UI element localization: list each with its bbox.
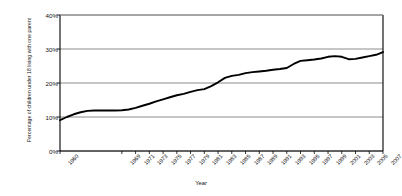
x-axis-tick-label: 2007 [390, 153, 402, 166]
x-axis-tick-label: 1987 [252, 153, 265, 166]
data-line-series [60, 52, 383, 120]
x-axis-tick-label: 1989 [266, 153, 279, 166]
y-axis-title: Percentage of children under 18 living w… [26, 14, 32, 146]
x-axis-tick-label: 1981 [211, 153, 224, 166]
x-axis-tick-label: 1969 [128, 153, 141, 166]
x-axis-tick-label: 1997 [321, 153, 334, 166]
x-axis-tick-label: 1993 [293, 153, 306, 166]
y-axis-tick-label: 40% [36, 12, 58, 19]
x-axis-tick-labels: 1960196919711973197519771979198119831985… [0, 153, 402, 183]
y-axis-tick-label: 30% [36, 46, 58, 53]
x-axis-title: Year [0, 180, 402, 186]
x-axis-tick-label: 2003 [362, 153, 375, 166]
x-axis-tick-label: 2001 [348, 153, 361, 166]
y-axis-tick-labels: 0%10%20%30%40% [36, 0, 58, 146]
y-axis-tick-label: 20% [36, 80, 58, 87]
x-axis-tick-label: 1977 [183, 153, 196, 166]
x-axis-tick-label: 1983 [225, 153, 238, 166]
x-axis-tick-label: 1973 [156, 153, 169, 166]
x-axis-tick-label: 1999 [335, 153, 348, 166]
x-axis-tick-label: 1991 [280, 153, 293, 166]
x-axis-tick-label: 1979 [197, 153, 210, 166]
x-axis-tick-label: 1995 [307, 153, 320, 166]
x-axis-tick-label: 1971 [142, 153, 155, 166]
x-axis-tick-label: 1960 [67, 153, 80, 166]
x-axis-tick-label: 1975 [170, 153, 183, 166]
x-axis-tick-label: 2005 [376, 153, 389, 166]
y-axis-tick-label: 10% [36, 114, 58, 121]
x-axis-tick-label: 1985 [238, 153, 251, 166]
chart-container: Percentage of children under 18 living w… [0, 0, 402, 196]
